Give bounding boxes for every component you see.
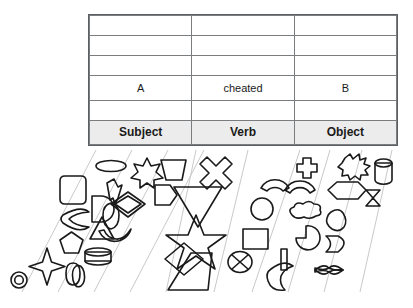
square-icon (243, 229, 268, 249)
pacman-icon (296, 226, 320, 250)
bowtie-icon (315, 266, 343, 274)
crescent-icon (61, 209, 89, 230)
six-point-star-icon (131, 158, 163, 188)
shape-lanes-canvas (0, 0, 413, 308)
vertical-oval-small-icon (72, 266, 84, 287)
trapezoid-up-icon (161, 160, 186, 180)
crossed-circle-icon (228, 252, 252, 273)
moon-icon (267, 263, 293, 290)
arc-bridge-icon (285, 181, 315, 193)
cloud-icon (290, 202, 321, 219)
circle-ring-icon (11, 272, 27, 288)
rounded-rect-icon (103, 203, 119, 229)
four-point-cross-icon (200, 157, 232, 189)
diamond-in-diamond-icon (111, 192, 145, 217)
plus-cross-icon (297, 158, 317, 178)
rounded-square-icon (60, 176, 86, 204)
vertical-bar-icon (281, 249, 287, 270)
cylinder-icon (375, 159, 392, 184)
pentagon-icon (60, 232, 83, 253)
hourglass-icon (366, 190, 380, 206)
starburst-icon (338, 154, 370, 180)
cylinder-band-icon (85, 248, 111, 265)
four-point-star-icon (29, 248, 65, 285)
hexagon-icon (328, 182, 366, 199)
ellipse-icon (96, 161, 126, 172)
circle-icon (251, 198, 273, 220)
trapezoid-down-icon (168, 253, 212, 290)
